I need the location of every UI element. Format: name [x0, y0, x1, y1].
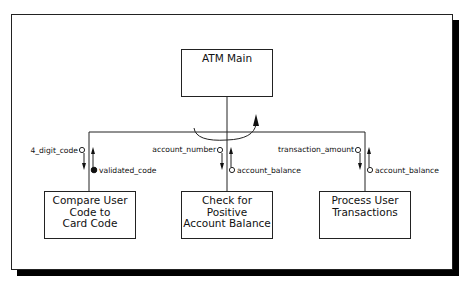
couple-label-account-balance-2: account_balance [375, 166, 439, 175]
down-arrow-icon [220, 163, 224, 170]
down-arrow-icon [82, 163, 86, 170]
module-compare-user-code[interactable]: Compare User Code to Card Code [44, 191, 136, 239]
module-label-line: Process User [320, 195, 410, 207]
module-label-line: Card Code [45, 218, 135, 230]
couple-label-account-number: account_number [152, 145, 216, 154]
module-label-line: Compare User [45, 195, 135, 207]
data-couple-icon [355, 147, 360, 152]
module-check-positive-balance[interactable]: Check for Positive Account Balance [181, 191, 273, 239]
control-couple-icon [91, 167, 97, 173]
couple-group-2 [217, 147, 234, 173]
module-label-line: Account Balance [182, 218, 272, 230]
connector-layer [0, 0, 469, 290]
module-process-user-transactions[interactable]: Process User Transactions [319, 191, 411, 239]
couple-label-4-digit-code: 4_digit_code [30, 146, 78, 155]
module-label-line: Check for [182, 195, 272, 207]
up-arrow-icon [367, 147, 371, 154]
couple-label-validated-code: validated_code [99, 166, 156, 175]
up-arrow-icon [91, 147, 95, 154]
module-atm-main[interactable]: ATM Main [181, 49, 273, 97]
data-couple-icon [229, 167, 234, 172]
couple-group-3 [355, 147, 372, 173]
data-couple-icon [79, 147, 84, 152]
down-arrow-icon [358, 163, 362, 170]
data-couple-icon [217, 147, 222, 152]
module-label: ATM Main [182, 53, 272, 65]
data-couple-icon [367, 167, 372, 172]
module-label-line: Transactions [320, 207, 410, 219]
couple-label-transaction-amount: transaction_amount [278, 145, 354, 154]
up-arrow-icon [229, 147, 233, 154]
couple-group-1 [79, 147, 96, 173]
couple-label-account-balance-1: account_balance [237, 166, 301, 175]
loop-arrowhead-icon [253, 114, 259, 126]
